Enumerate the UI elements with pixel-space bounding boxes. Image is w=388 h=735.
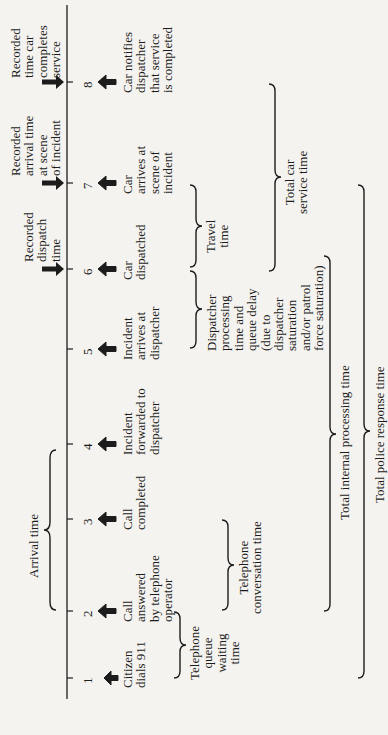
tick-label: 8 xyxy=(80,82,96,89)
event-label-car-arrives: Car arrives at scene of incident xyxy=(121,146,175,194)
brace-telephone-conversation xyxy=(222,520,234,610)
arrow-up-icon xyxy=(104,671,118,685)
tick-label: 5 xyxy=(80,349,96,356)
brace-travel-time xyxy=(190,185,202,267)
interval-label-telephone-queue: Telephone queue waiting time xyxy=(188,626,242,680)
arrow-up-icon xyxy=(98,262,116,276)
event-label-incident-forwarded: Incident forwarded to dispatcher xyxy=(121,388,161,455)
brace-total-car-service xyxy=(269,84,281,271)
brace-dispatcher-processing xyxy=(190,271,202,348)
event-label-call-answered: Call answered by telephone operator xyxy=(121,555,175,622)
tick-label: 2 xyxy=(80,611,96,618)
interval-label-total-internal-processing: Total internal processing time xyxy=(338,365,351,520)
interval-label-total-car-service: Total car service time xyxy=(283,151,310,214)
arrow-up-icon xyxy=(98,342,116,356)
interval-label-telephone-conversation: Telephone conversation time xyxy=(237,521,264,614)
arrow-up-icon xyxy=(98,512,116,526)
arrow-up-icon xyxy=(98,75,116,89)
police-response-timeline-diagram: 1 2 3 4 5 6 7 8 Citizen dials 911 Call a… xyxy=(0,0,388,735)
arrow-down-icon xyxy=(42,176,64,190)
brace-telephone-queue xyxy=(174,612,186,678)
tick-label: 1 xyxy=(80,678,96,685)
interval-label-travel-time: Travel time xyxy=(204,220,231,253)
brace-total-police-response xyxy=(358,185,370,678)
interval-braces xyxy=(44,84,370,678)
event-label-car-dispatched: Car dispatched xyxy=(121,224,148,280)
recorded-completion-time: Recorded time car completes service xyxy=(9,25,63,78)
event-label-call-completed: Call completed xyxy=(121,476,148,530)
arrow-up-icon xyxy=(98,176,116,190)
arrow-up-icon xyxy=(98,604,116,618)
brace-arrival-time xyxy=(44,450,56,610)
recorded-dispatch-time: Recorded dispatch time xyxy=(22,212,62,262)
tick-label: 3 xyxy=(80,519,96,526)
event-arrows xyxy=(98,75,118,685)
tick-label: 6 xyxy=(80,269,96,276)
interval-label-dispatcher-processing: Dispatcher processing time and queue del… xyxy=(205,265,326,351)
event-label-incident-arrives: Incident arrives at dispatcher xyxy=(121,307,161,360)
event-label-citizen-dials: Citizen dials 911 xyxy=(121,641,148,688)
interval-label-total-police-response: Total police response time xyxy=(373,366,386,503)
tick-label: 7 xyxy=(80,183,96,190)
interval-label-arrival-time: Arrival time xyxy=(27,514,40,578)
tick-marks xyxy=(67,82,73,678)
arrow-up-icon xyxy=(98,437,116,451)
tick-label: 4 xyxy=(80,444,96,451)
recorded-arrival-time: Recorded arrival time at scene of incide… xyxy=(9,116,63,176)
diagram-lines xyxy=(0,0,388,735)
event-label-car-notifies: Car notifies dispatcher that service is … xyxy=(121,27,175,93)
arrow-down-icon xyxy=(42,262,64,276)
